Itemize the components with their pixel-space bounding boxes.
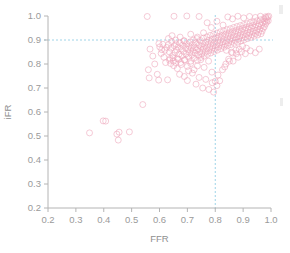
data-point xyxy=(184,78,190,84)
data-points xyxy=(87,13,272,143)
data-point xyxy=(184,13,190,19)
scatter-plot: 0.20.30.40.50.60.70.80.91.00.20.30.40.50… xyxy=(0,0,290,253)
data-point xyxy=(156,41,162,47)
data-point xyxy=(150,53,156,59)
data-point xyxy=(156,77,162,83)
data-point xyxy=(215,72,221,78)
x-tick-label: 0.8 xyxy=(209,214,222,225)
y-tick-label: 0.5 xyxy=(28,130,41,141)
data-point xyxy=(209,69,215,75)
y-tick-label: 0.3 xyxy=(28,178,41,189)
data-point xyxy=(144,13,150,19)
data-point xyxy=(191,67,197,73)
figure-container: 0.20.30.40.50.60.70.80.91.00.20.30.40.50… xyxy=(0,0,290,253)
x-tick-label: 0.6 xyxy=(153,214,166,225)
y-tick-label: 0.7 xyxy=(28,82,41,93)
data-point xyxy=(235,13,241,19)
data-point xyxy=(152,61,158,67)
x-tick-label: 0.9 xyxy=(237,214,250,225)
y-tick-label: 0.2 xyxy=(28,202,41,213)
data-point xyxy=(201,64,207,70)
data-point xyxy=(256,46,262,52)
data-point xyxy=(126,129,132,135)
y-tick-label: 0.6 xyxy=(28,106,41,117)
data-point xyxy=(241,15,247,21)
data-point xyxy=(154,71,160,77)
axes: 0.20.30.40.50.60.70.80.91.00.20.30.40.50… xyxy=(28,10,278,225)
y-axis-title: iFR xyxy=(2,104,13,119)
data-point xyxy=(140,102,146,108)
data-point xyxy=(115,137,121,143)
data-point xyxy=(165,77,171,83)
data-point xyxy=(206,58,212,64)
data-point xyxy=(214,18,220,24)
data-point xyxy=(145,67,151,73)
y-tick-label: 0.8 xyxy=(28,58,41,69)
data-point xyxy=(193,81,199,87)
y-tick-label: 1.0 xyxy=(28,10,41,21)
data-point xyxy=(181,73,187,79)
data-point xyxy=(87,130,93,136)
data-point xyxy=(252,50,258,56)
data-point xyxy=(200,85,206,91)
data-point xyxy=(146,75,152,81)
x-axis-title: FFR xyxy=(150,233,169,244)
data-point xyxy=(147,46,153,52)
data-point xyxy=(203,76,209,82)
x-tick-label: 0.7 xyxy=(181,214,194,225)
data-point xyxy=(177,34,183,40)
x-tick-label: 0.5 xyxy=(125,214,138,225)
page-edge-artifacts xyxy=(279,5,283,106)
x-tick-label: 0.2 xyxy=(41,214,54,225)
x-tick-label: 0.3 xyxy=(69,214,82,225)
page-edge-mark-middle xyxy=(280,98,283,106)
x-tick-label: 0.4 xyxy=(97,214,110,225)
y-tick-label: 0.4 xyxy=(28,154,41,165)
data-point xyxy=(196,74,202,80)
data-point xyxy=(194,63,200,69)
data-point xyxy=(196,13,202,19)
data-point xyxy=(247,13,253,19)
data-point xyxy=(235,54,241,60)
x-tick-label: 1.0 xyxy=(264,214,277,225)
data-point xyxy=(204,20,210,26)
y-tick-label: 0.9 xyxy=(28,34,41,45)
data-point xyxy=(171,13,177,19)
data-point xyxy=(188,31,194,37)
page-edge-mark-top xyxy=(279,5,283,14)
data-point xyxy=(220,22,226,28)
data-point xyxy=(208,25,214,31)
